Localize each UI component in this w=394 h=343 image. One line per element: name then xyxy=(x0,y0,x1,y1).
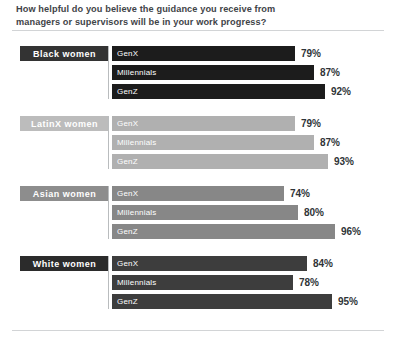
bar-row: Millennials87% xyxy=(112,135,394,150)
bar-row: GenX79% xyxy=(112,46,394,61)
bar-row: GenZ96% xyxy=(112,224,394,239)
bar-series-label: GenZ xyxy=(117,154,138,169)
bar-series-label: GenX xyxy=(117,256,138,271)
divider-top xyxy=(12,30,384,31)
bar-row: GenX74% xyxy=(112,186,394,201)
bar-series-label: GenX xyxy=(117,46,138,61)
bar-series-label: GenX xyxy=(117,186,138,201)
bar-series-label: GenZ xyxy=(117,84,138,99)
bar-series-label: Millennials xyxy=(117,205,157,220)
bar-row: GenZ92% xyxy=(112,84,394,99)
group-label-black-women: Black women xyxy=(20,46,109,61)
bar-value-label: 93% xyxy=(334,154,354,169)
bar-genz: GenZ xyxy=(112,154,328,169)
bar-genx: GenX xyxy=(112,46,295,61)
bar-series-label: GenX xyxy=(117,116,138,131)
bar-value-label: 92% xyxy=(331,84,351,99)
chart-container: How helpful do you believe the guidance … xyxy=(0,0,394,343)
bar-genz: GenZ xyxy=(112,84,325,99)
bar-value-label: 84% xyxy=(313,256,333,271)
bar-value-label: 74% xyxy=(290,186,310,201)
bar-row: GenX79% xyxy=(112,116,394,131)
bar-genx: GenX xyxy=(112,186,284,201)
group-rows: GenX79%Millennials87%GenZ92% xyxy=(112,46,394,103)
bar-series-label: GenZ xyxy=(117,294,138,309)
group-label-white-women: White women xyxy=(20,256,109,271)
group-connector-line xyxy=(108,186,109,239)
bar-genx: GenX xyxy=(112,116,295,131)
bar-row: Millennials78% xyxy=(112,275,394,290)
bar-value-label: 87% xyxy=(320,65,340,80)
page-title: How helpful do you believe the guidance … xyxy=(16,3,316,28)
group-rows: GenX84%Millennials78%GenZ95% xyxy=(112,256,394,313)
bar-genx: GenX xyxy=(112,256,307,271)
group-connector-line xyxy=(108,256,109,309)
bar-row: Millennials87% xyxy=(112,65,394,80)
bar-millennials: Millennials xyxy=(112,205,298,220)
bar-row: GenZ93% xyxy=(112,154,394,169)
bar-value-label: 87% xyxy=(320,135,340,150)
bar-millennials: Millennials xyxy=(112,135,314,150)
divider-bottom xyxy=(12,330,384,331)
bar-value-label: 95% xyxy=(338,294,358,309)
bar-value-label: 80% xyxy=(304,205,324,220)
bar-genz: GenZ xyxy=(112,294,332,309)
group-connector-line xyxy=(108,46,109,99)
bar-series-label: GenZ xyxy=(117,224,138,239)
bar-series-label: Millennials xyxy=(117,275,157,290)
group-connector-line xyxy=(108,116,109,169)
bar-row: GenZ95% xyxy=(112,294,394,309)
bar-row: Millennials80% xyxy=(112,205,394,220)
bar-value-label: 78% xyxy=(299,275,319,290)
group-rows: GenX79%Millennials87%GenZ93% xyxy=(112,116,394,173)
bar-value-label: 79% xyxy=(301,46,321,61)
group-label-latinx-women: LatinX women xyxy=(20,116,109,131)
bar-millennials: Millennials xyxy=(112,65,314,80)
bar-value-label: 79% xyxy=(301,116,321,131)
bar-genz: GenZ xyxy=(112,224,335,239)
group-label-asian-women: Asian women xyxy=(20,186,109,201)
bar-series-label: Millennials xyxy=(117,135,157,150)
group-rows: GenX74%Millennials80%GenZ96% xyxy=(112,186,394,243)
bar-millennials: Millennials xyxy=(112,275,293,290)
bar-row: GenX84% xyxy=(112,256,394,271)
bar-value-label: 96% xyxy=(341,224,361,239)
bar-series-label: Millennials xyxy=(117,65,157,80)
